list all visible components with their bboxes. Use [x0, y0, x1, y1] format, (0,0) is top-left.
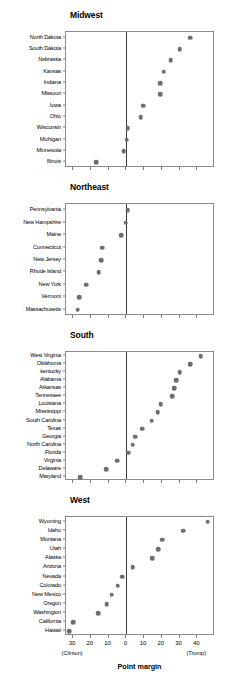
data-point [177, 370, 182, 375]
y-axis-label: Nebraska [38, 56, 61, 62]
y-axis-label: Nevada [43, 573, 61, 579]
panel-title-northeast: Northeast [70, 182, 109, 192]
y-axis-label: New Jersey [33, 256, 61, 262]
clinton-end-label: (Clinton) [62, 650, 83, 656]
y-axis-label: Pennsylvania [30, 206, 61, 212]
data-point [188, 362, 193, 367]
x-axis-tick [143, 480, 144, 483]
y-axis-label: South Carolina [26, 417, 61, 423]
x-axis-tick [125, 167, 126, 170]
plot-area-south [65, 351, 214, 480]
y-axis-label: South Dakota [29, 45, 61, 51]
y-axis-label: Virginia [44, 457, 61, 463]
x-axis-tick [72, 480, 73, 483]
data-point [156, 547, 161, 552]
data-point [100, 245, 105, 250]
data-point [141, 103, 146, 108]
plot-area-midwest [65, 31, 214, 167]
y-axis-label: Indiana [44, 79, 61, 85]
data-point [125, 126, 130, 131]
y-axis-label: Washington [33, 609, 61, 615]
data-point [138, 115, 143, 120]
x-axis-tick [196, 635, 197, 638]
data-point [75, 307, 80, 312]
y-axis-label: North Dakota [30, 34, 61, 40]
data-point [104, 467, 109, 472]
x-axis-title: Point margin [118, 662, 162, 671]
zero-reference-line-south [126, 352, 127, 479]
data-point [133, 434, 138, 439]
y-axis-label: Florida [45, 449, 61, 455]
y-axis-label: Missouri [41, 90, 61, 96]
y-axis-label: Arizona [43, 563, 61, 569]
x-axis-tick-label: 0 [124, 640, 127, 646]
y-axis-label: Tennessee [35, 392, 61, 398]
y-axis-label: Georgia [42, 433, 61, 439]
data-point [125, 137, 130, 142]
data-point [150, 556, 155, 561]
y-axis-label: Wisconsin [37, 124, 61, 130]
data-point [130, 565, 135, 570]
y-axis-label: Massachusetts [26, 306, 61, 312]
y-axis-label: Illinois [47, 158, 61, 164]
y-axis-label: North Carolina [27, 441, 61, 447]
y-axis-label: Ohio [50, 113, 61, 119]
data-point [115, 583, 120, 588]
data-point [96, 611, 101, 616]
data-point [84, 283, 89, 288]
data-point [160, 538, 165, 543]
x-axis-tick [161, 315, 162, 318]
x-axis-tick [161, 167, 162, 170]
data-point [158, 81, 163, 86]
y-axis-label: Utah [50, 545, 61, 551]
data-point [120, 574, 125, 579]
y-axis-label: Minnesota [37, 147, 61, 153]
data-point [123, 220, 128, 225]
x-axis-tick [161, 635, 162, 638]
data-point [119, 233, 124, 238]
x-axis-tick [90, 167, 91, 170]
y-axis-label: Wyoming [39, 518, 61, 524]
x-axis-tick [143, 167, 144, 170]
data-point [105, 602, 110, 607]
y-axis-label: West Virginia [30, 352, 61, 358]
y-axis-label: New York [39, 281, 61, 287]
x-axis-tick-label: 20 [157, 640, 164, 646]
trump-end-label: (Trump) [186, 650, 206, 656]
y-axis-label: Mississippi [36, 408, 61, 414]
data-point [125, 208, 130, 213]
x-axis-tick [196, 480, 197, 483]
y-axis-label: Alaska [45, 554, 61, 560]
data-point [78, 475, 83, 480]
x-axis-tick [179, 167, 180, 170]
data-point [67, 629, 72, 634]
x-axis-tick [143, 635, 144, 638]
data-point [94, 160, 99, 165]
y-axis-label: Rhode Island [30, 268, 61, 274]
panel-title-south: South [70, 330, 94, 340]
data-point [161, 69, 166, 74]
data-point [71, 620, 76, 625]
data-point [149, 418, 154, 423]
y-axis-label: Arkansas [39, 384, 61, 390]
x-axis-tick [72, 635, 73, 638]
x-axis-tick [196, 315, 197, 318]
data-point [97, 270, 102, 275]
x-axis-tick [179, 480, 180, 483]
data-point [156, 410, 161, 415]
x-axis-tick [179, 635, 180, 638]
data-point [199, 354, 204, 359]
y-axis-label: Texas [47, 425, 61, 431]
x-axis-tick-label: 10 [104, 640, 111, 646]
y-axis-label: Idaho [48, 527, 61, 533]
data-point [172, 386, 177, 391]
y-axis-label: New Hampshire [23, 219, 61, 225]
data-point [99, 258, 104, 263]
x-axis-tick-label: 10 [140, 640, 147, 646]
y-axis-label: Michigan [40, 136, 61, 142]
x-axis-tick [108, 167, 109, 170]
x-axis-tick-label: 30 [69, 640, 76, 646]
x-axis-tick-label: 20 [86, 640, 93, 646]
data-point [174, 378, 179, 383]
x-axis-tick-label: 40 [193, 640, 200, 646]
